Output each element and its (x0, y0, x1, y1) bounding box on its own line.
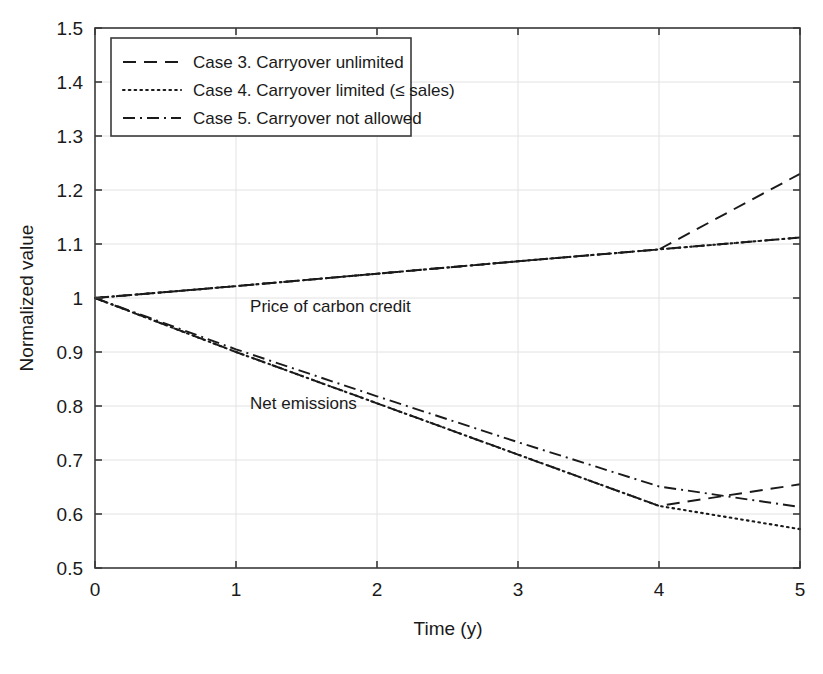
y-tick-label: 1.4 (57, 72, 84, 93)
y-tick-label: 1.3 (57, 126, 83, 147)
x-tick-label: 2 (372, 579, 383, 600)
legend-item-label: Case 4. Carryover limited (≤ sales) (193, 81, 455, 100)
y-tick-label: 1.2 (57, 180, 83, 201)
y-tick-label: 0.6 (57, 504, 83, 525)
x-tick-label: 5 (795, 579, 806, 600)
y-axis-label: Normalized value (16, 225, 37, 372)
y-tick-label: 0.8 (57, 396, 83, 417)
y-tick-label: 1.1 (57, 234, 83, 255)
x-tick-label: 3 (513, 579, 524, 600)
chart-annotation: Net emissions (250, 394, 357, 413)
y-tick-label: 0.5 (57, 558, 83, 579)
y-tick-label: 0.9 (57, 342, 83, 363)
legend-item-label: Case 5. Carryover not allowed (193, 109, 422, 128)
y-tick-label: 1.5 (57, 18, 83, 39)
y-tick-label: 1 (72, 288, 83, 309)
x-tick-label: 4 (654, 579, 665, 600)
normalized-value-vs-time-chart: 0.50.60.70.80.911.11.21.31.41.5012345 Pr… (0, 0, 823, 674)
x-tick-label: 1 (231, 579, 242, 600)
chart-legend: Case 3. Carryover unlimitedCase 4. Carry… (111, 38, 455, 136)
chart-annotation: Price of carbon credit (250, 297, 411, 316)
y-tick-label: 0.7 (57, 450, 83, 471)
x-tick-label: 0 (90, 579, 101, 600)
legend-item-label: Case 3. Carryover unlimited (193, 53, 404, 72)
x-axis-label: Time (y) (414, 618, 483, 639)
